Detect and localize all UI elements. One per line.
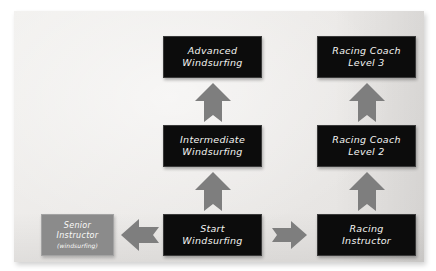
node-advanced-windsurfing-line2: Windsurfing xyxy=(182,57,242,69)
node-senior-instructor-line1: Senior xyxy=(64,221,91,231)
node-senior-instructor-line2: Instructor xyxy=(57,231,99,241)
arrow-right-start-to-racing-instructor-icon xyxy=(268,220,308,250)
node-intermediate-windsurfing-line2: Windsurfing xyxy=(182,146,242,158)
arrow-left-start-to-senior-instructor-icon xyxy=(120,218,160,252)
arrow-up-intermediate-to-advanced-icon xyxy=(194,82,232,122)
node-racing-coach-level-3: Racing Coach Level 3 xyxy=(317,36,416,78)
node-racing-coach-level-3-line2: Level 3 xyxy=(348,57,384,69)
node-racing-coach-level-2-line1: Racing Coach xyxy=(332,134,400,146)
diagram-screenshot: Advanced Windsurfing Racing Coach Level … xyxy=(0,0,436,271)
node-advanced-windsurfing-line1: Advanced xyxy=(188,45,238,57)
node-start-windsurfing-line2: Windsurfing xyxy=(182,235,242,247)
arrow-up-start-to-intermediate-icon xyxy=(194,171,232,211)
node-start-windsurfing-line1: Start xyxy=(200,223,225,235)
node-racing-instructor-line2: Instructor xyxy=(342,235,391,247)
arrow-up-racing-instructor-to-coach2-icon xyxy=(348,171,386,211)
node-intermediate-windsurfing-line1: Intermediate xyxy=(180,134,245,146)
node-racing-instructor-line1: Racing xyxy=(349,223,383,235)
node-intermediate-windsurfing: Intermediate Windsurfing xyxy=(163,125,262,167)
node-start-windsurfing: Start Windsurfing xyxy=(163,214,262,256)
node-racing-coach-level-2: Racing Coach Level 2 xyxy=(317,125,416,167)
node-advanced-windsurfing: Advanced Windsurfing xyxy=(163,36,262,78)
node-senior-instructor: Senior Instructor (windsurfing) xyxy=(41,214,114,256)
node-racing-instructor: Racing Instructor xyxy=(317,214,416,256)
poster-panel: Advanced Windsurfing Racing Coach Level … xyxy=(14,11,424,262)
node-racing-coach-level-3-line1: Racing Coach xyxy=(332,45,400,57)
node-racing-coach-level-2-line2: Level 2 xyxy=(348,146,384,158)
arrow-up-coach2-to-coach3-icon xyxy=(348,82,386,122)
node-senior-instructor-line3: (windsurfing) xyxy=(57,242,98,249)
